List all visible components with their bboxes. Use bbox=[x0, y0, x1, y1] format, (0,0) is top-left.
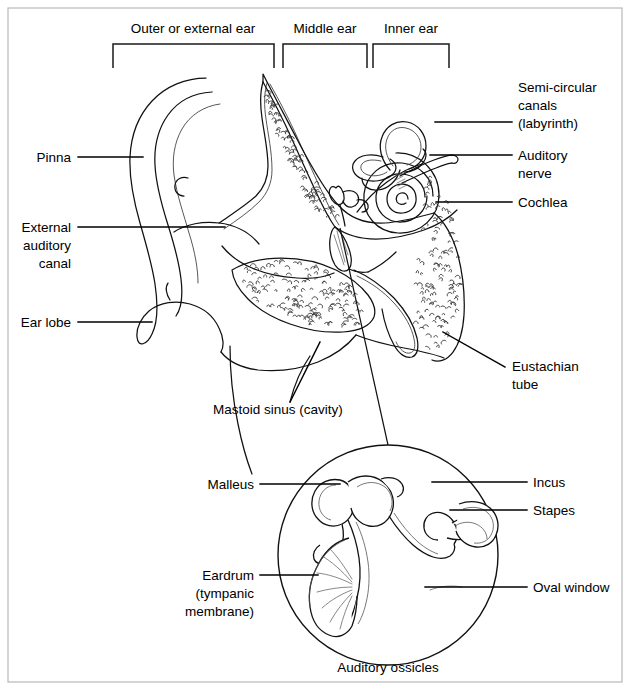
stipple-mark bbox=[450, 288, 454, 289]
pinna-antihelix bbox=[173, 104, 220, 283]
stipple-mark bbox=[439, 274, 443, 277]
stipple-mark bbox=[274, 260, 278, 262]
inset-connector-line bbox=[340, 228, 388, 445]
stipple-mark bbox=[420, 261, 425, 265]
ear-lobe-curl bbox=[166, 283, 170, 300]
stipple-mark bbox=[431, 202, 434, 205]
stipple-mark bbox=[279, 302, 285, 306]
stipple-mark bbox=[328, 287, 331, 291]
stipple-mark bbox=[300, 170, 305, 172]
region-bracket-label-0: Outer or external ear bbox=[131, 21, 256, 36]
stipple-mark bbox=[424, 309, 428, 312]
label-mastoid-sinus: Mastoid sinus (cavity) bbox=[213, 402, 343, 417]
region-bracket-outer-or-external-ear bbox=[113, 44, 274, 68]
stipple-mark bbox=[257, 291, 260, 293]
stipple-mark bbox=[293, 165, 298, 169]
stipple-mark bbox=[360, 310, 363, 312]
stipple-mark bbox=[450, 250, 453, 252]
stipple-mark bbox=[301, 288, 305, 292]
stipple-mark bbox=[269, 113, 274, 116]
inset-caption: Auditory ossicles bbox=[337, 660, 439, 675]
stipple-mark bbox=[282, 279, 287, 281]
stipple-mark bbox=[342, 309, 345, 311]
ear-anatomy-figure: Outer or external earMiddle earInner ear bbox=[0, 0, 630, 690]
cochlea-third-turn bbox=[387, 184, 416, 213]
ossicle-chain-link bbox=[340, 205, 345, 226]
stipple-mark bbox=[421, 287, 424, 289]
stipple-mark bbox=[427, 298, 431, 300]
stipple-mark bbox=[434, 335, 438, 337]
stipple-mark bbox=[423, 324, 429, 327]
stipple-mark bbox=[275, 289, 278, 291]
stipple-mark bbox=[288, 280, 293, 284]
stipple-mark bbox=[446, 292, 452, 296]
stipple-mark bbox=[424, 187, 429, 189]
stipple-mark bbox=[307, 273, 311, 277]
label-pinna: Pinna bbox=[36, 150, 71, 165]
stipple-mark bbox=[425, 289, 429, 292]
stipple-mark bbox=[454, 297, 458, 300]
stipple-mark bbox=[251, 272, 256, 275]
stipple-mark bbox=[414, 321, 419, 324]
stipple-mark bbox=[437, 344, 440, 347]
label-eardrum: Eardrum(tympanicmembrane) bbox=[185, 568, 254, 619]
label-stapes: Stapes bbox=[533, 503, 575, 518]
region-bracket-middle-ear bbox=[283, 44, 367, 68]
stipple-mark bbox=[250, 263, 256, 266]
incus-small bbox=[343, 191, 359, 208]
leader-eustachian-tube bbox=[443, 332, 505, 367]
pinna-tragus bbox=[175, 177, 188, 196]
stipple-mark bbox=[425, 206, 431, 209]
stipple-mark bbox=[298, 167, 303, 170]
label-external-auditory-canal: Externalauditorycanal bbox=[21, 220, 71, 271]
middle-ear-medial-wall bbox=[368, 252, 396, 272]
stipple-mark bbox=[433, 267, 437, 271]
stipple-mark bbox=[310, 309, 314, 312]
stipple-mark bbox=[444, 264, 447, 266]
stipple-mark bbox=[439, 277, 443, 281]
stipple-mark bbox=[442, 207, 446, 210]
neck-contour-right bbox=[356, 335, 444, 358]
stipple-mark bbox=[322, 281, 325, 283]
label-ear-lobe: Ear lobe bbox=[21, 315, 71, 330]
stipple-mark bbox=[320, 290, 324, 293]
stipple-mark bbox=[271, 280, 275, 282]
stipple-mark bbox=[448, 241, 451, 243]
stipple-mark bbox=[285, 297, 289, 301]
stipple-mark bbox=[258, 277, 262, 279]
stipple-mark bbox=[451, 316, 455, 318]
stipple-mark bbox=[455, 308, 459, 312]
label-cochlea: Cochlea bbox=[518, 195, 568, 210]
stipple-mark bbox=[275, 132, 279, 136]
stipple-mark bbox=[272, 117, 276, 120]
stipple-mark bbox=[425, 191, 429, 195]
stipple-mark bbox=[433, 292, 436, 295]
stipple-mark bbox=[442, 313, 445, 314]
stipple-mark bbox=[421, 300, 425, 303]
stipple-mark bbox=[264, 275, 267, 278]
stipple-mark bbox=[343, 320, 349, 322]
stipple-mark bbox=[290, 161, 295, 165]
malleus-small bbox=[329, 186, 344, 204]
region-bracket-inner-ear bbox=[373, 44, 449, 68]
concha-bowl bbox=[174, 222, 259, 244]
stipple-mark bbox=[302, 280, 306, 282]
stipple-mark bbox=[339, 282, 343, 285]
stipple-mark bbox=[417, 258, 421, 261]
stipple-mark bbox=[348, 317, 353, 319]
stipple-mark bbox=[450, 279, 455, 284]
stipple-mark bbox=[269, 276, 273, 278]
stipple-mark bbox=[430, 287, 435, 288]
stipple-mark bbox=[247, 285, 252, 288]
stipple-mark bbox=[434, 217, 437, 219]
stipple-mark bbox=[336, 303, 341, 306]
region-brackets: Outer or external earMiddle earInner ear bbox=[113, 21, 449, 68]
stipple-mark bbox=[274, 273, 278, 275]
stipple-mark bbox=[310, 200, 315, 202]
skull-upper-contour bbox=[335, 210, 457, 239]
stipple-mark bbox=[434, 342, 437, 343]
stipple-mark bbox=[321, 193, 325, 195]
stipple-mark bbox=[318, 303, 324, 308]
stipple-mark bbox=[433, 320, 437, 322]
temporal-bone-stipple bbox=[264, 90, 339, 218]
